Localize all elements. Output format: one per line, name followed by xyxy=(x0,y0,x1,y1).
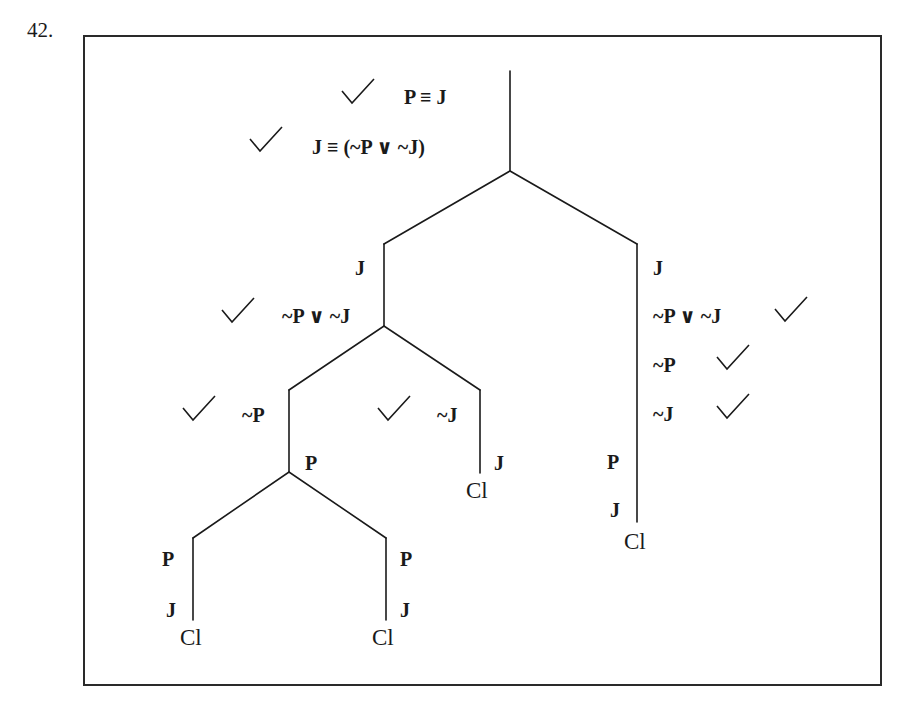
right-branch-line-6: J xyxy=(610,500,620,520)
right-branch-line-2: ~P ∨ ~J xyxy=(653,306,721,326)
right-branch-line-3: ~P xyxy=(653,355,676,375)
leaf-1-closed-marker: Cl xyxy=(180,626,202,649)
leaf-1-line-1: P xyxy=(162,549,174,569)
premise-1: P ≡ J xyxy=(404,87,447,107)
check-mark-icon xyxy=(715,343,751,373)
check-mark-icon xyxy=(376,394,412,424)
left-right-closed-marker: Cl xyxy=(466,479,488,502)
leaf-2-line-1: P xyxy=(400,549,412,569)
right-branch-closed-marker: Cl xyxy=(624,530,646,553)
left-right-line-1: ~J xyxy=(437,405,457,425)
check-mark-icon xyxy=(715,392,751,422)
premise-2: J ≡ (~P ∨ ~J) xyxy=(312,137,425,157)
left-branch-line-2: ~P ∨ ~J xyxy=(282,306,350,326)
check-mark-icon xyxy=(181,394,217,424)
check-mark-icon xyxy=(773,295,809,325)
tree-branches xyxy=(0,0,923,716)
left-branch-line-1: J xyxy=(355,258,365,278)
left-left-line-1: ~P xyxy=(242,405,265,425)
left-right-line-2: J xyxy=(494,453,504,473)
check-mark-icon xyxy=(340,77,376,107)
right-branch-line-1: J xyxy=(653,258,663,278)
left-left-line-2: P xyxy=(305,453,317,473)
right-branch-line-4: ~J xyxy=(653,404,673,424)
leaf-2-line-2: J xyxy=(400,600,410,620)
leaf-1-line-2: J xyxy=(166,600,176,620)
right-branch-line-5: P xyxy=(607,452,619,472)
check-mark-icon xyxy=(248,125,284,155)
leaf-2-closed-marker: Cl xyxy=(372,626,394,649)
check-mark-icon xyxy=(220,296,256,326)
